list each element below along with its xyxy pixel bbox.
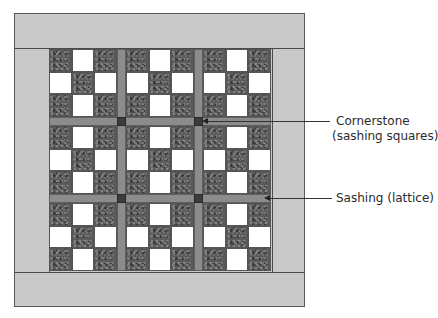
light-square <box>226 171 249 194</box>
light-square <box>171 226 194 249</box>
dark-square <box>72 226 95 249</box>
cornerstone <box>194 194 203 203</box>
light-square <box>226 49 249 72</box>
dark-square <box>248 49 271 72</box>
light-square <box>226 94 249 117</box>
light-square <box>126 149 149 172</box>
light-square <box>149 94 172 117</box>
dark-square <box>94 94 117 117</box>
dark-square <box>126 203 149 226</box>
sashing-label: Sashing (lattice) <box>336 191 434 205</box>
cornerstone-sublabel: (sashing squares) <box>332 129 438 143</box>
light-square <box>149 126 172 149</box>
dark-square <box>126 171 149 194</box>
light-square <box>248 149 271 172</box>
cornerstone <box>117 194 126 203</box>
light-square <box>49 72 72 95</box>
light-square <box>226 203 249 226</box>
sashing-vertical <box>194 49 203 271</box>
light-square <box>72 248 95 271</box>
light-square <box>149 203 172 226</box>
light-square <box>171 149 194 172</box>
dark-square <box>203 94 226 117</box>
dark-square <box>126 94 149 117</box>
dark-square <box>171 126 194 149</box>
dark-square <box>248 171 271 194</box>
dark-square <box>226 149 249 172</box>
cornerstone-arrow-icon <box>202 118 208 124</box>
dark-square <box>248 126 271 149</box>
light-square <box>226 248 249 271</box>
dark-square <box>49 171 72 194</box>
cornerstone <box>117 117 126 126</box>
dark-square <box>49 248 72 271</box>
light-square <box>149 171 172 194</box>
light-square <box>72 94 95 117</box>
dark-square <box>94 171 117 194</box>
dark-square <box>49 203 72 226</box>
light-square <box>72 126 95 149</box>
dark-square <box>72 72 95 95</box>
light-square <box>203 226 226 249</box>
sashing-horizontal <box>49 194 271 203</box>
light-square <box>248 72 271 95</box>
dark-square <box>171 94 194 117</box>
dark-square <box>149 72 172 95</box>
dark-square <box>94 248 117 271</box>
light-square <box>149 248 172 271</box>
dark-square <box>94 126 117 149</box>
sashing-leader-line <box>270 198 332 199</box>
dark-square <box>49 49 72 72</box>
dark-square <box>171 49 194 72</box>
light-square <box>94 226 117 249</box>
dark-square <box>72 149 95 172</box>
sashing-arrow-icon <box>264 195 270 201</box>
light-square <box>226 126 249 149</box>
dark-square <box>126 126 149 149</box>
light-square <box>248 226 271 249</box>
dark-square <box>126 49 149 72</box>
light-square <box>203 149 226 172</box>
dark-square <box>248 203 271 226</box>
dark-square <box>203 171 226 194</box>
dark-square <box>203 203 226 226</box>
dark-square <box>149 226 172 249</box>
dark-square <box>203 248 226 271</box>
light-square <box>72 171 95 194</box>
dark-square <box>94 49 117 72</box>
light-square <box>72 203 95 226</box>
right-border-seam <box>272 49 273 272</box>
dark-square <box>203 49 226 72</box>
cornerstone-label: Cornerstone <box>336 114 410 128</box>
dark-square <box>226 226 249 249</box>
light-square <box>72 49 95 72</box>
dark-square <box>49 94 72 117</box>
dark-square <box>226 72 249 95</box>
light-square <box>49 226 72 249</box>
sashing-vertical <box>117 49 126 271</box>
light-square <box>203 72 226 95</box>
dark-square <box>171 171 194 194</box>
light-square <box>94 149 117 172</box>
bottom-border-seam <box>15 272 304 273</box>
dark-square <box>203 126 226 149</box>
light-square <box>126 72 149 95</box>
dark-square <box>126 248 149 271</box>
light-square <box>149 49 172 72</box>
dark-square <box>248 94 271 117</box>
dark-square <box>171 248 194 271</box>
dark-square <box>248 248 271 271</box>
dark-square <box>94 203 117 226</box>
dark-square <box>49 126 72 149</box>
light-square <box>171 72 194 95</box>
cornerstone-leader-line <box>206 121 330 122</box>
dark-square <box>149 149 172 172</box>
light-square <box>94 72 117 95</box>
light-square <box>49 149 72 172</box>
light-square <box>126 226 149 249</box>
dark-square <box>171 203 194 226</box>
